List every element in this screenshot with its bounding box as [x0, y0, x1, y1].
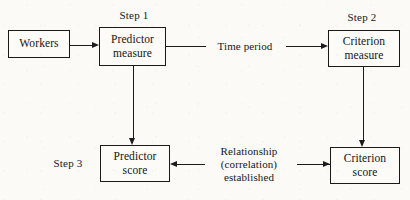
arrowhead-right-icon	[321, 43, 328, 49]
connector-criterion-measure-to-criterion-score	[363, 67, 364, 140]
step-label-3: Step 3	[46, 157, 90, 169]
connector-predictor-measure-to-time-period	[166, 46, 206, 47]
arrowhead-left-icon	[170, 161, 177, 167]
step-label-2: Step 2	[340, 11, 384, 23]
arrowhead-down-icon	[359, 140, 365, 147]
box-criterion-measure-label: Criterion measure	[341, 35, 387, 62]
connector-workers-to-predictor-measure	[70, 45, 92, 46]
box-criterion-score[interactable]: Criterion score	[330, 147, 400, 184]
connector-time-period-to-criterion-measure	[286, 46, 321, 47]
arrowhead-down-icon	[129, 138, 135, 145]
box-workers-label: Workers	[17, 37, 60, 51]
arrowhead-right-icon	[92, 42, 99, 48]
connector-predictor-measure-to-predictor-score	[133, 66, 134, 138]
box-workers[interactable]: Workers	[8, 30, 70, 58]
edge-label-relationship: Relationship (correlation) established	[206, 145, 292, 183]
box-predictor-measure-label: Predictor measure	[109, 33, 156, 60]
step-label-1: Step 1	[112, 9, 156, 21]
box-predictor-score[interactable]: Predictor score	[100, 145, 170, 182]
connector-relationship-to-predictor-score	[177, 164, 205, 165]
box-predictor-measure[interactable]: Predictor measure	[99, 27, 166, 66]
diagram-canvas: Step 1 Step 2 Step 3 Workers Predictor m…	[0, 0, 410, 200]
arrowhead-right-icon	[323, 161, 330, 167]
box-criterion-measure[interactable]: Criterion measure	[328, 30, 400, 67]
box-criterion-score-label: Criterion score	[342, 152, 388, 179]
box-predictor-score-label: Predictor score	[111, 150, 158, 177]
edge-label-time-period: Time period	[208, 40, 282, 53]
